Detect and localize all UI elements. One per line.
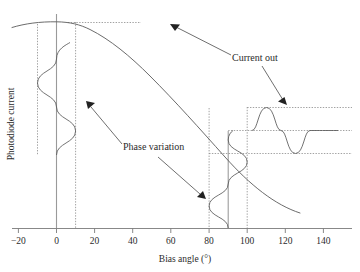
phase-variation-arrow-line-2	[158, 157, 200, 194]
xtick-label: 0	[54, 236, 59, 246]
xtick-label: 140	[316, 236, 331, 246]
annotation-current-out: Current out	[170, 24, 287, 105]
xtick-label: 120	[278, 236, 293, 246]
xtick-label: 40	[128, 236, 138, 246]
x-axis: −20 0 20 40 60 80 100 120 140 Bias angle…	[11, 229, 352, 266]
xtick-label: 80	[204, 236, 214, 246]
x-axis-tick-labels: −20 0 20 40 60 80 100 120 140	[11, 236, 331, 246]
xtick-label: 100	[240, 236, 255, 246]
photodiode-current-vs-bias-angle-chart: −20 0 20 40 60 80 100 120 140 Bias angle…	[0, 0, 360, 272]
xtick-label: 60	[166, 236, 176, 246]
figure-container: −20 0 20 40 60 80 100 120 140 Bias angle…	[0, 0, 360, 272]
y-axis-label: Photodiode current	[6, 87, 16, 160]
current-out-arrow-line-2	[262, 66, 283, 100]
transfer-curve	[12, 22, 300, 213]
current-out-arrow-head-2	[278, 97, 287, 105]
current-out-arrow-line-1	[176, 27, 231, 55]
phase-variation-arrow-head-1	[86, 101, 95, 109]
current-out-arrow-head-1	[170, 24, 180, 31]
phase-variation-arrow-line-1	[91, 107, 122, 144]
current-out-label: Current out	[232, 52, 278, 63]
xtick-label: −20	[11, 236, 26, 246]
reference-lines	[38, 14, 353, 228]
xtick-label: 20	[90, 236, 100, 246]
x-axis-label: Bias angle (°)	[159, 254, 211, 265]
phase-variation-label: Phase variation	[123, 141, 184, 152]
x-axis-ticks	[18, 229, 323, 234]
